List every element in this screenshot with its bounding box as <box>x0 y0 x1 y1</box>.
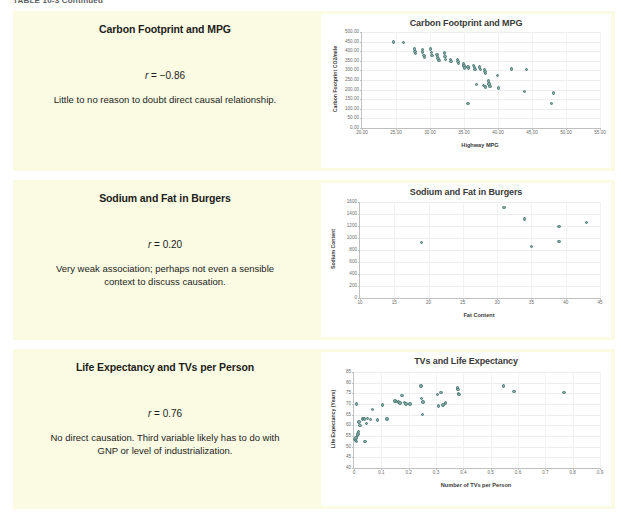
x-tick-label: 30 <box>495 301 500 306</box>
y-tick-label: 45 <box>346 455 351 460</box>
data-point <box>502 384 505 387</box>
grid-line <box>360 238 600 239</box>
data-point <box>523 217 526 220</box>
y-tick-mark <box>360 118 362 119</box>
y-tick-label: 400 <box>349 272 357 277</box>
x-tick-label: 0.8 <box>569 471 575 476</box>
table-row: Sodium and Fat in Burgers r = 0.20 Very … <box>13 180 615 340</box>
grid-line <box>354 415 600 416</box>
data-point <box>376 418 379 421</box>
y-tick-mark <box>358 226 360 227</box>
data-point <box>473 68 476 71</box>
x-tick-label: 30.00 <box>424 131 436 136</box>
y-tick-mark <box>352 457 354 458</box>
grid-line <box>360 202 600 203</box>
y-tick-mark <box>358 238 360 239</box>
grid-line <box>360 214 600 215</box>
chart-title: Carbon Footprint and MPG <box>321 18 611 28</box>
data-point <box>512 390 515 393</box>
grid-line <box>362 109 600 110</box>
y-tick-label: 800 <box>349 248 357 253</box>
grid-line <box>362 99 600 100</box>
explanation-text: Little to no reason to doubt direct caus… <box>54 93 276 107</box>
y-tick-label: 200.00 <box>345 87 359 92</box>
data-point <box>437 59 440 62</box>
data-point <box>381 403 384 406</box>
y-axis-label: Carbon Footprint CO2/mile <box>332 31 338 127</box>
r-equals: = <box>151 239 162 250</box>
data-point <box>357 430 360 433</box>
data-point <box>502 206 505 209</box>
y-tick-label: 300.00 <box>345 68 359 73</box>
x-tick-label: 25 <box>460 301 465 306</box>
grid-line <box>429 202 430 298</box>
data-point <box>419 384 422 387</box>
y-tick-label: 55 <box>346 434 351 439</box>
data-point <box>449 60 452 63</box>
y-tick-label: 60 <box>346 423 351 428</box>
y-tick-mark <box>360 61 362 62</box>
x-tick-label: 50.00 <box>560 131 572 136</box>
y-tick-label: 200 <box>349 284 357 289</box>
y-tick-mark <box>352 447 354 448</box>
y-tick-mark <box>360 109 362 110</box>
grid-line <box>360 286 600 287</box>
data-point <box>423 56 426 59</box>
x-tick-label: 0.3 <box>433 471 439 476</box>
plot-area: 0.0050.00100.00150.00200.00250.00300.003… <box>361 32 600 129</box>
data-point <box>552 91 555 94</box>
scatter-chart-sodium-fat: Sodium and Fat in Burgers 02004006008001… <box>321 183 611 337</box>
grid-line <box>362 42 600 43</box>
x-tick-label: 55.00 <box>594 131 606 136</box>
grid-line <box>566 202 567 298</box>
data-point <box>562 391 565 394</box>
explanation-text: No direct causation. Third variable like… <box>40 431 290 459</box>
table-caption: TABLE 10-3 Continued <box>13 0 313 5</box>
grid-line <box>600 202 601 298</box>
page-title: Carbon Footprint and MPG <box>99 23 231 36</box>
grid-line <box>436 372 437 468</box>
data-point <box>430 54 433 57</box>
data-point <box>484 72 487 75</box>
x-tick-label: 0.4 <box>460 471 466 476</box>
grid-line <box>354 425 600 426</box>
grid-line <box>360 226 600 227</box>
x-tick-label: 0.2 <box>405 471 411 476</box>
x-tick-label: 10 <box>357 301 362 306</box>
y-tick-mark <box>360 70 362 71</box>
data-point <box>421 400 424 403</box>
table-row: Carbon Footprint and MPG r = −0.86 Littl… <box>13 11 615 171</box>
grid-line <box>394 202 395 298</box>
x-tick-label: 0.7 <box>542 471 548 476</box>
grid-line <box>600 32 601 128</box>
chart-cell: Sodium and Fat in Burgers 02004006008001… <box>317 180 615 340</box>
x-axis-label: Highway MPG <box>361 142 599 148</box>
y-tick-label: 70 <box>346 402 351 407</box>
grid-line <box>354 372 600 373</box>
data-point <box>392 40 395 43</box>
data-point <box>398 401 401 404</box>
y-tick-label: 1200 <box>347 224 357 229</box>
correlation-value: r = 0.20 <box>148 239 182 250</box>
y-tick-mark <box>360 90 362 91</box>
data-point <box>585 221 588 224</box>
plot-area: 0200400600800100012001400160010152025303… <box>359 202 600 299</box>
grid-line <box>354 447 600 448</box>
page-title: Life Expectancy and TVs per Person <box>76 361 254 374</box>
plot-area: 4045505560657075808500.10.20.30.40.50.60… <box>353 372 600 469</box>
x-tick-label: 0.5 <box>487 471 493 476</box>
data-point <box>421 413 424 416</box>
grid-line <box>362 90 600 91</box>
r-equals: = <box>148 70 159 81</box>
y-tick-label: 350.00 <box>345 59 359 64</box>
data-point <box>488 85 491 88</box>
table-row: Life Expectancy and TVs per Person r = 0… <box>13 349 615 509</box>
y-tick-label: 80 <box>346 380 351 385</box>
y-axis-label: Life Expectancy (Years) <box>330 371 336 467</box>
y-tick-mark <box>360 42 362 43</box>
data-point <box>371 408 374 411</box>
grid-line <box>362 118 600 119</box>
y-tick-mark <box>360 80 362 81</box>
data-point <box>456 388 459 391</box>
x-tick-label: 0 <box>353 471 356 476</box>
